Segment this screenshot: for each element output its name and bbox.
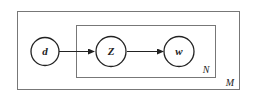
node-z-label: Z [107, 45, 115, 57]
plate-diagram: d Z w N M [0, 0, 253, 95]
plate-n-label: N [202, 64, 211, 75]
node-w-label: w [175, 45, 183, 57]
node-d-label: d [42, 45, 48, 57]
plate-m-label: M [225, 77, 235, 88]
